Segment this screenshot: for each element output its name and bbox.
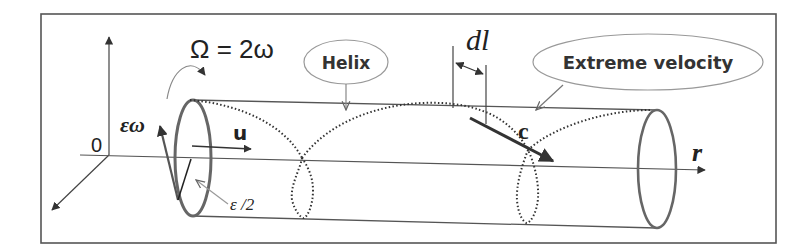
helix-curve [190, 100, 650, 223]
dl-span [456, 63, 483, 74]
depth-axis [52, 155, 109, 210]
helix-cylinder-diagram: Ω = 2ω εω 0 u ε /2 Helix dl Extreme velo… [0, 0, 811, 252]
r-label: r [692, 138, 703, 167]
c-label: c [518, 118, 529, 144]
eps-half-label: ε /2 [230, 195, 255, 214]
eps-half-pointer [196, 180, 228, 204]
u-arrow [192, 146, 251, 149]
omega-equation-label: Ω = 2ω [190, 34, 274, 64]
cylinder-top-line [192, 100, 656, 110]
dl-label: dl [466, 23, 489, 56]
helix-label: Helix [322, 53, 370, 73]
eps-omega-label: εω [120, 112, 145, 137]
origin-label: 0 [91, 134, 102, 156]
rotation-arrow [167, 66, 205, 99]
radius-line [178, 159, 191, 200]
u-label: u [233, 121, 247, 145]
extreme-velocity-pointer [536, 85, 563, 110]
extreme-velocity-label: Extreme velocity [563, 52, 734, 73]
cylinder-bottom-line [192, 216, 656, 228]
